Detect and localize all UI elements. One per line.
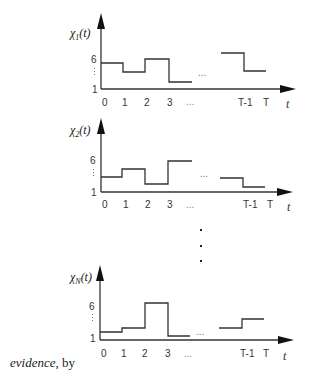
chart-3: [100, 274, 284, 340]
step-line-left: [101, 59, 192, 82]
chart-2-x-label: t: [287, 201, 290, 213]
x-axis-arrow-icon: [277, 188, 293, 196]
step-line-left: [101, 161, 192, 184]
chart-2-x-tick-ellipsis: ...: [186, 200, 194, 210]
chart-3-x-label: t: [283, 350, 286, 362]
step-line-right: [220, 178, 265, 187]
chart-3-y-label: χN(t): [70, 271, 92, 286]
chart-3-y-ellipsis: [92, 314, 94, 323]
y-axis-arrow-icon: [97, 118, 105, 134]
chart-2-x-tick-2: 2: [145, 200, 151, 210]
chart-2-x-tick-1: 1: [123, 200, 129, 210]
chart-1-x-tick-3: 3: [167, 98, 173, 108]
ellipsis-dot: [200, 229, 202, 231]
chart-1-x-tick-1: 1: [122, 98, 128, 108]
x-axis-arrow-icon: [278, 336, 294, 344]
chart-2-x-tick-3: 3: [167, 200, 173, 210]
y-axis-arrow-icon: [96, 265, 104, 281]
chart-3-x-tick-t: T: [263, 349, 269, 359]
chart-3-y-tick-1: 1: [90, 334, 96, 344]
figure: χ1(t) 6 1 0 1 2 3 ... T-1 T t ... χ2(t) …: [0, 0, 311, 383]
step-line-right: [219, 319, 264, 328]
chart-1-x-tick-2: 2: [144, 98, 150, 108]
chart-2-y-tick-6: 6: [90, 156, 96, 166]
chart-2-y-tick-1: 1: [91, 188, 97, 198]
chart-3-gap-marker: ...: [196, 327, 204, 337]
chart-2-y-label: χ2(t): [70, 124, 91, 139]
chart-1-y-tick-1: 1: [92, 85, 98, 95]
chart-1-y-label: χ1(t): [70, 27, 91, 42]
chart-3-x-tick-2: 2: [142, 349, 148, 359]
chart-3-y-tick-6: 6: [89, 302, 95, 312]
chart-2: [101, 127, 283, 192]
chart-3-x-tick-1: 1: [121, 349, 127, 359]
chart-1-x-tick-ellipsis: ...: [186, 97, 194, 107]
chart-1-x-label: t: [286, 98, 289, 110]
ellipsis-dot: [200, 260, 202, 262]
chart-1-x-tick-t: T: [263, 98, 269, 108]
step-line-left: [100, 303, 190, 336]
chart-2-gap-marker: ...: [200, 169, 208, 179]
chart-2-x-tick-0: 0: [102, 200, 108, 210]
side-caption-text: evidence, by: [10, 355, 75, 371]
step-charts-svg: [0, 0, 311, 383]
chart-2-y-ellipsis: [93, 169, 95, 178]
chart-1-y-tick-6: 6: [91, 55, 97, 65]
y-axis-arrow-icon: [97, 13, 105, 29]
chart-2-x-tick-t-minus-1: T-1: [243, 200, 257, 210]
chart-1-y-ellipsis: [94, 68, 96, 77]
chart-2-x-tick-t: T: [267, 200, 273, 210]
chart-3-x-tick-ellipsis: ...: [184, 349, 192, 359]
x-axis-arrow-icon: [280, 85, 296, 93]
chart-3-x-tick-0: 0: [101, 349, 107, 359]
chart-1-x-tick-t-minus-1: T-1: [238, 98, 252, 108]
step-line-right: [221, 53, 266, 71]
chart-1: [101, 22, 287, 89]
chart-3-x-tick-3: 3: [165, 349, 171, 359]
chart-1-gap-marker: ...: [198, 68, 206, 78]
chart-3-x-tick-t-minus-1: T-1: [240, 349, 254, 359]
chart-1-x-tick-0: 0: [102, 98, 108, 108]
ellipsis-dot: [200, 245, 202, 247]
